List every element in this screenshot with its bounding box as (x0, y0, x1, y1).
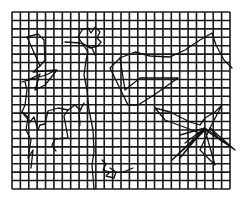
figure-caption: · · · · · · · (12, 193, 232, 202)
trajectory-grid-figure (0, 0, 244, 202)
